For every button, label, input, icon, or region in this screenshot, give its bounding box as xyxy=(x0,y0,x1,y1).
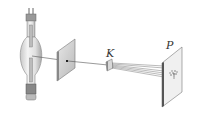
screen-label: P xyxy=(165,39,174,52)
diagram: K P xyxy=(0,0,202,116)
diffracted-beams xyxy=(112,63,164,77)
crystal-label: K xyxy=(105,47,115,60)
screen: P xyxy=(162,39,182,107)
x-ray-tube xyxy=(20,8,42,100)
aperture-plate xyxy=(57,39,75,81)
pinhole xyxy=(66,60,68,62)
